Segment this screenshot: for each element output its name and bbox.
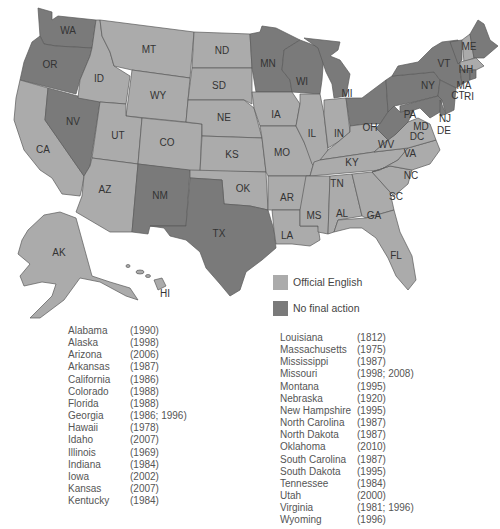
state-name: Idaho (68, 434, 130, 446)
state-name: Mississippi (280, 356, 357, 368)
state-name: Georgia (68, 410, 130, 422)
label-OH: OH (363, 122, 378, 133)
adoption-years: (2002) (130, 471, 159, 483)
adoption-years: (1995) (357, 381, 386, 393)
list-item: Illinois(1969) (68, 447, 187, 459)
state-year-list-right: Louisiana(1812)Massachusetts(1975)Missis… (280, 332, 414, 527)
state-name: North Carolina (280, 417, 357, 429)
adoption-years: (1998; 2008) (357, 368, 414, 380)
label-AK: AK (52, 247, 66, 258)
state-name: Missouri (280, 368, 357, 380)
adoption-years: (1988) (130, 386, 159, 398)
list-item: Montana(1995) (280, 381, 414, 393)
adoption-years: (1988) (130, 398, 159, 410)
label-MO: MO (274, 147, 290, 158)
label-NV: NV (66, 116, 80, 127)
state-name: Florida (68, 398, 130, 410)
adoption-years: (2007) (130, 434, 159, 446)
list-item: North Dakota(1987) (280, 429, 414, 441)
adoption-years: (1986) (130, 374, 159, 386)
list-item: Idaho(2007) (68, 434, 187, 446)
adoption-years: (1995) (357, 466, 386, 478)
label-MN: MN (260, 58, 276, 69)
label-FL: FL (390, 250, 402, 261)
us-map: WA OR CA NV ID MT WY UT AZ CO NM ND SD N… (0, 0, 500, 320)
list-item: Mississippi(1987) (280, 356, 414, 368)
label-SD: SD (212, 80, 226, 91)
adoption-years: (1812) (357, 332, 386, 344)
label-WY: WY (150, 90, 166, 101)
list-item: New Hampshire(1995) (280, 405, 414, 417)
list-item: Nebraska(1920) (280, 393, 414, 405)
adoption-years: (1987) (130, 361, 159, 373)
label-MS: MS (307, 210, 322, 221)
label-NH: NH (459, 64, 473, 75)
label-PA: PA (404, 109, 417, 120)
label-VT: VT (438, 58, 451, 69)
label-NC: NC (404, 170, 418, 181)
label-AR: AR (280, 192, 294, 203)
adoption-years: (1987) (357, 417, 386, 429)
adoption-years: (1984) (357, 478, 386, 490)
label-IL: IL (308, 128, 317, 139)
label-DC: DC (410, 131, 424, 142)
label-TN: TN (330, 178, 343, 189)
label-ID: ID (94, 73, 104, 84)
adoption-years: (1920) (357, 393, 386, 405)
legend: Official English No final action (273, 270, 362, 322)
hawaii-islet (136, 270, 144, 274)
label-OR: OR (43, 59, 58, 70)
list-item: Alaska(1998) (68, 337, 187, 349)
list-item: Louisiana(1812) (280, 332, 414, 344)
label-CA: CA (36, 144, 50, 155)
state-name: Montana (280, 381, 357, 393)
list-item: Utah(2000) (280, 490, 414, 502)
list-item: Colorado(1988) (68, 386, 187, 398)
state-name: Arizona (68, 349, 130, 361)
list-item: Iowa(2002) (68, 471, 187, 483)
label-ND: ND (215, 45, 229, 56)
list-item: Georgia(1986; 1996) (68, 410, 187, 422)
list-item: South Dakota(1995) (280, 466, 414, 478)
label-MT: MT (142, 44, 156, 55)
label-AL: AL (336, 208, 349, 219)
adoption-years: (1978) (130, 422, 159, 434)
label-UT: UT (111, 130, 124, 141)
state-name: Iowa (68, 471, 130, 483)
state-name: Illinois (68, 447, 130, 459)
legend-item-no-final-action: No final action (273, 296, 362, 320)
label-WI: WI (296, 76, 308, 87)
legend-label: No final action (293, 302, 360, 314)
legend-swatch-official-english (273, 275, 288, 290)
hawaii-islet (146, 275, 151, 278)
adoption-years: (1990) (130, 325, 159, 337)
list-item: Arkansas(1987) (68, 361, 187, 373)
state-name: Arkansas (68, 361, 130, 373)
label-NJ: NJ (439, 113, 451, 124)
label-ME: ME (462, 41, 477, 52)
label-KS: KS (225, 149, 239, 160)
adoption-years: (1986; 1996) (130, 410, 187, 422)
label-GA: GA (367, 210, 382, 221)
label-WV: WV (378, 139, 394, 150)
adoption-years: (1987) (357, 454, 386, 466)
adoption-years: (1984) (130, 459, 159, 471)
hawaii-islet (126, 265, 130, 268)
label-CT: CT (451, 90, 464, 101)
state-name: California (68, 374, 130, 386)
label-WA: WA (60, 25, 76, 36)
adoption-years: (1987) (357, 429, 386, 441)
label-NE: NE (217, 112, 231, 123)
state-name: South Dakota (280, 466, 357, 478)
adoption-years: (1975) (357, 344, 386, 356)
list-item: Missouri(1998; 2008) (280, 368, 414, 380)
adoption-years: (2006) (130, 349, 159, 361)
list-item: Indiana(1984) (68, 459, 187, 471)
state-name: Indiana (68, 459, 130, 471)
label-RI: RI (464, 91, 474, 102)
legend-swatch-no-final-action (273, 301, 288, 316)
label-IA: IA (271, 109, 281, 120)
label-KY: KY (345, 157, 359, 168)
state-ME (470, 20, 498, 58)
state-name: Massachusetts (280, 344, 357, 356)
